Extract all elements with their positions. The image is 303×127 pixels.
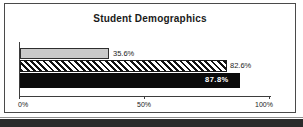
bar-series-1	[20, 48, 109, 59]
bar-label-series-3: 87.8%	[205, 75, 229, 84]
bar-label-series-1: 35.6%	[113, 49, 134, 58]
x-tick-label-100: 100%	[255, 101, 273, 108]
x-tick-mark-50	[144, 96, 145, 99]
bottom-dark-band	[0, 119, 303, 127]
x-tick-mark-100	[269, 96, 270, 99]
chart-title: Student Demographics	[4, 13, 296, 24]
bottom-divider	[0, 117, 303, 118]
x-tick-label-50: 50%	[137, 101, 151, 108]
x-tick-label-0: 0%	[18, 101, 28, 108]
x-tick-mark-0	[19, 96, 20, 99]
bar-series-2	[20, 60, 227, 72]
x-axis-line	[19, 96, 271, 97]
plot-area: 0% 50% 100% 35.6% 82.6% 87.8%	[20, 42, 270, 96]
chart-figure: Student Demographics 0% 50% 100% 35.6% 8…	[0, 0, 303, 127]
bar-label-series-2: 82.6%	[230, 61, 251, 70]
